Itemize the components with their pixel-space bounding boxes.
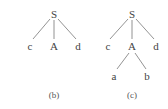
parse-tree-b: S c A d (b)	[28, 8, 82, 100]
caption-c: (c)	[127, 90, 137, 100]
edge-s-c	[33, 19, 50, 39]
node-a-child: a	[112, 70, 117, 82]
caption-b: (b)	[49, 90, 60, 100]
node-c: c	[106, 40, 111, 52]
node-a: A	[128, 40, 136, 52]
edge-a-b	[135, 53, 146, 69]
node-a: A	[50, 40, 58, 52]
node-s: S	[129, 8, 135, 20]
node-d: d	[153, 40, 159, 52]
node-s: S	[51, 8, 57, 20]
parse-tree-c: S c A d a b (c)	[106, 8, 160, 100]
edge-a-a	[117, 53, 129, 69]
edge-s-d	[58, 19, 76, 39]
edge-s-d	[136, 19, 154, 39]
node-c: c	[28, 40, 33, 52]
parse-tree-diagram: S c A d (b) S c A d a b (c)	[0, 0, 168, 109]
node-b-child: b	[144, 70, 150, 82]
node-d: d	[75, 40, 81, 52]
edge-s-c	[110, 19, 128, 39]
